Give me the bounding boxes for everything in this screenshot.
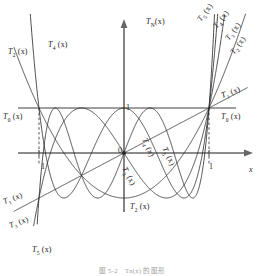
y-tick-one: 1	[126, 104, 130, 112]
curve-label-t5-bottom: T5 (x)	[32, 246, 52, 256]
x-tick-left-one: 1	[41, 163, 45, 171]
x-axis-label: x	[249, 166, 253, 174]
y-axis-label: TN(x)	[146, 18, 165, 28]
figure-chebyshev-polynomials: TN(x) x 0 1 1 1 T2 (x)T4 (x)T0 (x)T1 (x)…	[0, 0, 264, 276]
figure-caption: 图 5-2 Tn(x) 的图形	[0, 265, 264, 275]
x-tick-right-one: 1	[209, 163, 213, 171]
origin-tick: 0	[118, 147, 122, 155]
curve-label-t2-bottom-mid: T2 (x)	[130, 203, 150, 213]
curve-label-t0-left: T0 (x)	[3, 113, 23, 123]
curve-label-t2-top-left: T2 (x)	[8, 48, 28, 58]
curve-label-t4-top-left: T4 (x)	[48, 41, 68, 51]
chebyshev-plot	[0, 0, 264, 276]
curve-label-t0-right: T0 (x)	[221, 113, 241, 123]
